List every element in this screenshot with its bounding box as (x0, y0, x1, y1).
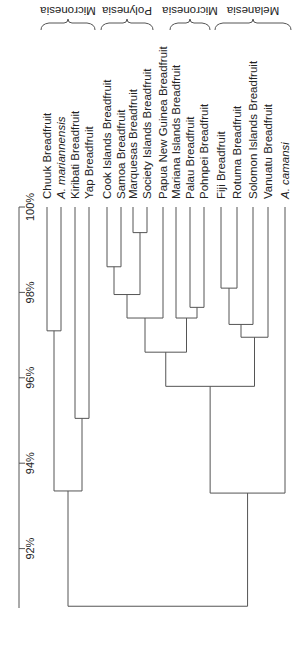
group-brace (170, 19, 210, 30)
group-label: Micronesia (40, 5, 96, 17)
group-label: Micronesia (162, 5, 218, 17)
axis-tick-label: 98% (24, 281, 36, 303)
leaf-label: Yap Breadfruit (83, 126, 95, 199)
group-label: Melanesia (226, 5, 279, 17)
leaf-label: Pohnpei Breadfruit (198, 103, 210, 199)
axis-tick-label: 92% (24, 537, 36, 559)
leaf-label: Samoa Breadfruit (115, 109, 127, 199)
leaf-label: Mariana Islands Breadfruit (170, 64, 182, 199)
group-brace (101, 19, 153, 30)
leaf-label: Rotuma Breadfruit (231, 105, 243, 199)
group-brace (41, 19, 95, 30)
axis-tick-label: 100% (24, 193, 36, 221)
leaf-labels: Chuuk BreadfruitA. mariannensisKiribati … (41, 45, 291, 200)
leaf-label: A. camansi (279, 142, 291, 200)
leaf-label: Papua New Guinea Breadfruit (157, 45, 169, 199)
leaf-label: Cook Islands Breadfruit (101, 79, 113, 199)
group-label: Polynesia (101, 5, 151, 17)
leaf-label: Society Islands Breadfruit (141, 68, 153, 199)
leaf-label: Marquesas Breadfruit (127, 88, 139, 199)
axis-tick-label: 96% (24, 367, 36, 389)
leaf-label: Chuuk Breadfruit (41, 112, 53, 199)
similarity-axis: 100%98%96%94%92% (19, 193, 36, 608)
region-group-headers: MicronesiaPolynesiaMicronesiaMelanesia (40, 5, 291, 30)
dendrogram-branches (47, 207, 285, 606)
dendrogram-svg: MicronesiaPolynesiaMicronesiaMelanesia C… (0, 0, 306, 649)
leaf-label: Fiji Breadfruit (215, 130, 227, 199)
leaf-label: A. mariannensis (55, 116, 67, 200)
group-brace (215, 19, 291, 30)
leaf-label: Kiribati Breadfruit (69, 110, 81, 199)
leaf-label: Vanuatu Breadfruit (262, 103, 274, 199)
dendrogram-chart: MicronesiaPolynesiaMicronesiaMelanesia C… (0, 0, 306, 649)
axis-tick-label: 94% (24, 452, 36, 474)
leaf-label: Palau Breadfruit (184, 116, 196, 199)
leaf-label: Solomon Islands Breadfruit (247, 60, 259, 199)
